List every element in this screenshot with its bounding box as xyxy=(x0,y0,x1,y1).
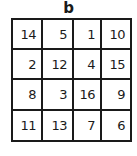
grid-cell: 2 xyxy=(13,50,43,80)
grid-cell: 14 xyxy=(13,20,43,50)
diagram-label: b xyxy=(0,0,137,17)
grid-cell: 13 xyxy=(43,111,74,140)
grid-cell: 3 xyxy=(43,80,74,111)
magic-square-grid: 14 5 1 10 2 12 4 15 8 3 16 9 11 13 7 6 xyxy=(11,18,132,142)
grid-cell: 7 xyxy=(74,111,102,140)
grid-cell: 1 xyxy=(74,20,102,50)
grid-cell: 12 xyxy=(43,50,74,80)
grid-cell: 11 xyxy=(13,111,43,140)
grid-cell: 4 xyxy=(74,50,102,80)
grid-cell: 8 xyxy=(13,80,43,111)
grid-cell: 16 xyxy=(74,80,102,111)
grid-cell: 5 xyxy=(43,20,74,50)
grid-cell: 10 xyxy=(102,20,130,50)
grid-cell: 15 xyxy=(102,50,130,80)
grid-cell: 9 xyxy=(102,80,130,111)
grid-cell: 6 xyxy=(102,111,130,140)
